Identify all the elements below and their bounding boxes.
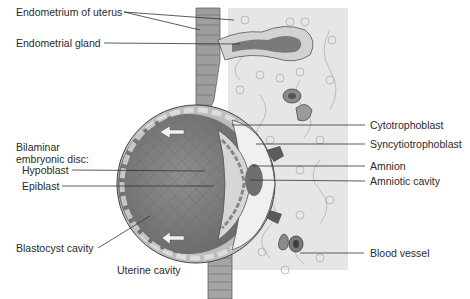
label-blastocyst-cavity: Blastocyst cavity (16, 242, 94, 254)
label-bilaminar-line1: Bilaminar (16, 141, 60, 153)
label-hypoblast: Hypoblast (22, 164, 69, 176)
label-endometrial-gland: Endometrial gland (16, 37, 101, 49)
label-endometrium: Endometrium of uterus (16, 6, 122, 18)
label-amnion: Amnion (370, 160, 406, 172)
label-syncytiotrophoblast: Syncytiotrophoblast (370, 138, 462, 150)
label-blood-vessel: Blood vessel (370, 247, 430, 259)
label-uterine-cavity: Uterine cavity (117, 264, 181, 276)
label-amniotic-cavity: Amniotic cavity (370, 175, 440, 187)
label-cytotrophoblast: Cytotrophoblast (370, 119, 444, 131)
label-epiblast: Epiblast (22, 180, 59, 192)
